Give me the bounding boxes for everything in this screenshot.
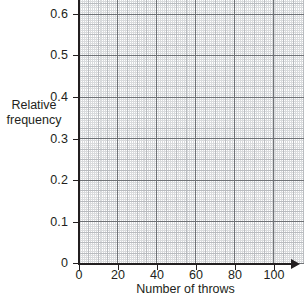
y-tick-label: 0.6 — [6, 8, 68, 21]
y-tick-label: 0.1 — [6, 216, 68, 229]
y-tick-mark — [73, 180, 79, 181]
y-tick-mark — [73, 14, 79, 15]
relative-frequency-graph: 0.6 0.5 0.4 0.3 0.2 0.1 0 0 20 40 60 80 … — [0, 0, 304, 299]
y-tick-mark — [73, 55, 79, 56]
y-tick-label: 0 — [6, 257, 68, 270]
x-axis-line — [78, 263, 293, 265]
y-axis-title: Relative frequency — [0, 98, 68, 127]
x-tick-label: 40 — [137, 269, 177, 282]
y-tick-mark — [73, 97, 79, 98]
y-axis-title-line-1: Relative — [0, 98, 68, 113]
x-tick-label: 0 — [59, 269, 99, 282]
y-tick-mark — [73, 263, 79, 264]
y-tick-mark — [73, 222, 79, 223]
y-tick-mark — [73, 139, 79, 140]
y-axis-line — [78, 0, 80, 265]
y-tick-label: 0.3 — [6, 133, 68, 146]
x-axis-arrowhead-icon — [291, 259, 300, 269]
x-tick-label: 20 — [98, 269, 138, 282]
x-axis-title: Number of throws — [78, 282, 293, 296]
plot-grid-area — [78, 0, 304, 264]
x-tick-label: 80 — [215, 269, 255, 282]
x-tick-label: 60 — [176, 269, 216, 282]
y-axis-title-line-2: frequency — [0, 113, 68, 128]
y-tick-label: 0.2 — [6, 174, 68, 187]
x-tick-label: 100 — [254, 269, 294, 282]
y-tick-label: 0.5 — [6, 49, 68, 62]
